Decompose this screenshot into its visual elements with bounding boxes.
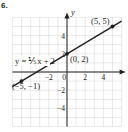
coordinate-plane-chart: −202442−2−4 (5, 5)(0, 2)(−5, −1) y = ⅕x … — [0, 0, 128, 132]
x-tick-label: 2 — [83, 73, 87, 82]
data-point-label: (0, 2) — [70, 54, 89, 64]
y-tick-label: −2 — [57, 86, 65, 95]
axis-labels: y — [70, 7, 75, 17]
y-tick-label: 4 — [61, 32, 65, 41]
y-tick-label: −4 — [57, 104, 65, 113]
equation-label: y = ⅕x + 2 — [14, 56, 55, 66]
y-axis-arrow-icon — [64, 12, 69, 18]
data-point-marker — [65, 52, 69, 56]
equation-label-text: y = ⅕x + 2 — [15, 56, 55, 66]
x-tick-label: 0 — [62, 73, 66, 82]
data-point-label: (−5, −1) — [12, 81, 40, 91]
data-point-label: (5, 5) — [91, 16, 110, 26]
x-axis-arrow-icon — [120, 69, 126, 74]
x-tick-label: −2 — [45, 73, 53, 82]
data-point-marker — [111, 25, 115, 29]
y-axis-label: y — [70, 7, 75, 17]
x-tick-label: 4 — [102, 73, 106, 82]
